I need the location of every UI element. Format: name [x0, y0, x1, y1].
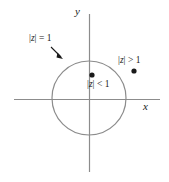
y-axis-label: y	[75, 6, 80, 17]
modulus-bar-close: |	[93, 79, 95, 89]
inside-point-label: |z| < 1	[87, 80, 109, 90]
value-one: 1	[47, 33, 52, 43]
figure-canvas	[0, 0, 169, 182]
outside-point-dot	[131, 68, 136, 73]
circle-label-arrow	[51, 47, 63, 59]
value-one: 1	[105, 79, 110, 89]
x-axis-label: x	[143, 101, 148, 112]
relation-greater-than: >	[128, 55, 133, 65]
outside-point-label: |z| > 1	[118, 56, 140, 66]
value-one: 1	[136, 55, 141, 65]
inside-point-dot	[89, 72, 94, 77]
complex-plane-figure: |z| = 1 |z| > 1 |z| < 1 y x	[0, 0, 169, 182]
modulus-bar-close: |	[124, 55, 126, 65]
relation-less-than: <	[97, 79, 102, 89]
circle-equation-label: |z| = 1	[29, 34, 51, 44]
relation-equals: =	[39, 33, 44, 43]
modulus-bar-close: |	[35, 33, 37, 43]
